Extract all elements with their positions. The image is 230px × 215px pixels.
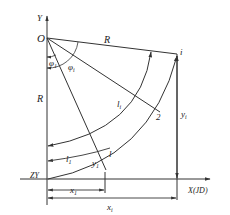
arc-li-label: li	[117, 99, 122, 110]
xi-label: xi	[106, 202, 113, 213]
y1-label: y1	[91, 158, 99, 169]
phi-i-label: φi	[68, 62, 75, 73]
x1-label: x1	[69, 185, 77, 196]
radius-left-label: R	[36, 93, 43, 104]
point-2-label: 2	[156, 112, 161, 122]
x-axis-label: X(JD)	[187, 186, 208, 195]
yi-label: yi	[180, 109, 187, 120]
zy-label: ZY	[30, 171, 40, 180]
radius-to-i	[47, 38, 177, 54]
origin-label: O	[37, 32, 45, 44]
radius-top-label: R	[103, 34, 110, 45]
phi-1-arc	[47, 55, 56, 57]
arc-inner	[48, 52, 151, 146]
point-i-label: i	[180, 47, 183, 57]
arc-l1-label: l1	[66, 154, 72, 165]
circular-curve-diagram: Y O R R φ1 φi i 2 li l1 l y1 yi ZY X(JD)…	[0, 0, 230, 215]
y-axis-label: Y	[37, 13, 43, 23]
phi-1-label: φ1	[49, 58, 57, 69]
